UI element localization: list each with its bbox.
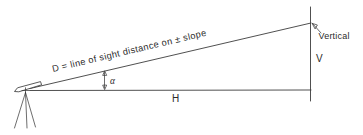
survey-diagram: Vertical V α H D = line of sight distanc…	[0, 0, 363, 135]
line-of-sight-slope-line	[30, 23, 311, 89]
horizontal-distance-line	[30, 90, 311, 91]
horizontal-distance-label: H	[172, 93, 179, 104]
slope-angle-label: α	[110, 76, 116, 86]
survey-diagram-canvas: Vertical V α H D = line of sight distanc…	[0, 0, 363, 135]
angle-arrow-icon	[103, 71, 107, 89]
slope-distance-label: D = line of sight distance on ± slope	[51, 28, 207, 74]
vertical-label: Vertical	[319, 31, 350, 41]
tripod-icon	[15, 93, 36, 129]
vertical-distance-label: V	[316, 53, 323, 64]
transit-instrument-icon	[15, 82, 42, 94]
